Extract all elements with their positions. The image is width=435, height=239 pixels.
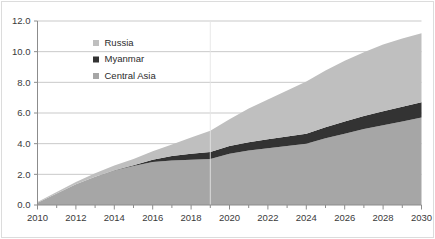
legend-label: Russia <box>105 37 135 48</box>
legend-swatch <box>93 57 99 63</box>
y-tick-label: 8.0 <box>17 77 30 88</box>
legend-label: Myanmar <box>105 53 145 64</box>
stacked-area-chart: 0.02.04.06.08.010.012.0 2010201220142016… <box>0 0 435 239</box>
x-tick-label: 2024 <box>296 212 317 223</box>
y-tick-label: 2.0 <box>17 169 30 180</box>
x-tick-label: 2030 <box>411 212 432 223</box>
x-axis-tick-labels: 2010201220142016201820202022202420262028… <box>27 212 432 223</box>
y-tick-label: 12.0 <box>12 15 31 26</box>
legend-swatch <box>93 40 99 46</box>
y-axis-tick-labels: 0.02.04.06.08.010.012.0 <box>12 15 31 210</box>
x-tick-label: 2016 <box>142 212 163 223</box>
legend-item-myanmar: Myanmar <box>93 53 144 64</box>
legend-item-central-asia: Central Asia <box>93 70 156 81</box>
chart-plot-area: 0.02.04.06.08.010.012.0 2010201220142016… <box>0 0 435 239</box>
x-tick-label: 2026 <box>334 212 355 223</box>
legend-label: Central Asia <box>105 70 157 81</box>
y-tick-label: 10.0 <box>12 46 31 57</box>
x-tick-label: 2018 <box>181 212 202 223</box>
x-tick-label: 2010 <box>27 212 48 223</box>
chart-legend: RussiaMyanmarCentral Asia <box>93 37 156 81</box>
x-tick-label: 2022 <box>257 212 278 223</box>
x-tick-label: 2012 <box>65 212 86 223</box>
x-tick-label: 2014 <box>104 212 125 223</box>
y-tick-label: 0.0 <box>17 199 30 210</box>
legend-swatch <box>93 73 99 79</box>
x-tick-label: 2020 <box>219 212 240 223</box>
y-tick-label: 6.0 <box>17 107 30 118</box>
legend-item-russia: Russia <box>93 37 134 48</box>
y-tick-label: 4.0 <box>17 138 30 149</box>
x-tick-label: 2028 <box>373 212 394 223</box>
